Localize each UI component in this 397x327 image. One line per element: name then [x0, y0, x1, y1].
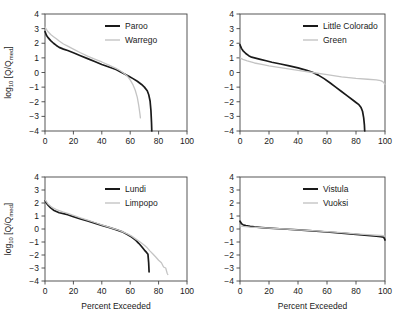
x-tick-label: 100	[378, 136, 392, 146]
x-tick-label: 40	[97, 286, 107, 296]
legend-label-vuoksi: Vuoksi	[323, 198, 348, 208]
y-tick-label: −3	[29, 111, 39, 121]
svg-text:log10 [Q/Qmed]: log10 [Q/Qmed]	[3, 46, 14, 98]
y-tick-label: 4	[34, 172, 39, 182]
legend-label-warrego: Warrego	[125, 35, 158, 45]
chart-panel-bottom-left: 43210−1−2−3−4020406080100LundiLimpopolog…	[0, 163, 197, 327]
series-line-little-colorado	[240, 45, 365, 131]
series-line-paroo	[45, 32, 152, 131]
y-tick-label: −1	[29, 237, 39, 247]
x-tick-label: 40	[293, 136, 303, 146]
y-tick-label: 0	[34, 68, 39, 78]
y-tick-label: 4	[229, 9, 234, 19]
y-tick-label: 3	[229, 24, 234, 34]
y-tick-label: −1	[224, 82, 234, 92]
y-tick-label: −1	[224, 237, 234, 247]
legend-label-paroo: Paroo	[125, 21, 148, 31]
y-tick-label: 2	[34, 198, 39, 208]
legend-label-vistula: Vistula	[323, 184, 349, 194]
y-tick-label: −2	[224, 250, 234, 260]
y-tick-label: 3	[34, 185, 39, 195]
figure-panel-grid: 43210−1−2−3−4020406080100ParooWarregolog…	[0, 0, 397, 327]
y-tick-label: 2	[34, 38, 39, 48]
x-tick-label: 60	[322, 286, 332, 296]
plot-frame	[45, 14, 187, 131]
y-tick-label: −4	[29, 126, 39, 136]
legend-label-lundi: Lundi	[125, 184, 146, 194]
plot-frame	[240, 177, 385, 281]
x-tick-label: 80	[351, 136, 361, 146]
x-tick-label: 100	[180, 286, 194, 296]
chart-panel-top-right: 43210−1−2−3−4020406080100Little Colorado…	[197, 0, 397, 163]
y-tick-label: 4	[34, 9, 39, 19]
series-line-vuoksi	[240, 226, 385, 236]
x-tick-label: 20	[264, 136, 274, 146]
x-axis-title: Percent Exceeded	[81, 301, 151, 311]
chart-panel-bottom-right: 43210−1−2−3−4020406080100VistulaVuoksiPe…	[197, 163, 397, 327]
y-tick-label: 3	[229, 185, 234, 195]
x-tick-label: 20	[69, 136, 79, 146]
x-tick-label: 100	[378, 286, 392, 296]
y-tick-label: 4	[229, 172, 234, 182]
x-tick-label: 40	[97, 136, 107, 146]
x-tick-label: 0	[43, 286, 48, 296]
x-tick-label: 0	[238, 286, 243, 296]
svg-text:log10 [Q/Qmed]: log10 [Q/Qmed]	[3, 203, 14, 255]
legend-label-little-colorado: Little Colorado	[323, 21, 378, 31]
y-tick-label: −2	[29, 97, 39, 107]
series-line-green	[240, 58, 385, 85]
x-axis-title: Percent Exceeded	[278, 301, 348, 311]
y-tick-label: 1	[34, 211, 39, 221]
x-tick-label: 20	[69, 286, 79, 296]
y-tick-label: −3	[224, 263, 234, 273]
y-tick-label: −2	[224, 97, 234, 107]
y-tick-label: 0	[34, 224, 39, 234]
legend-label-limpopo: Limpopo	[125, 198, 158, 208]
y-tick-label: −3	[224, 111, 234, 121]
x-tick-label: 60	[322, 136, 332, 146]
y-tick-label: 1	[34, 53, 39, 63]
x-tick-label: 60	[125, 286, 135, 296]
x-tick-label: 80	[154, 136, 164, 146]
y-axis-title: log10 [Q/Qmed]	[3, 46, 14, 98]
y-tick-label: 1	[229, 53, 234, 63]
y-tick-label: 3	[34, 24, 39, 34]
y-tick-label: 0	[229, 224, 234, 234]
x-tick-label: 60	[125, 136, 135, 146]
x-tick-label: 0	[238, 136, 243, 146]
y-tick-label: 0	[229, 68, 234, 78]
x-tick-label: 40	[293, 286, 303, 296]
y-tick-label: 2	[229, 198, 234, 208]
chart-panel-top-left: 43210−1−2−3−4020406080100ParooWarregolog…	[0, 0, 197, 163]
y-tick-label: −1	[29, 82, 39, 92]
x-tick-label: 0	[43, 136, 48, 146]
y-tick-label: −4	[224, 126, 234, 136]
y-tick-label: −4	[29, 276, 39, 286]
y-axis-title: log10 [Q/Qmed]	[3, 203, 14, 255]
y-tick-label: −4	[224, 276, 234, 286]
x-tick-label: 100	[180, 136, 194, 146]
x-tick-label: 80	[351, 286, 361, 296]
y-tick-label: 1	[229, 211, 234, 221]
x-tick-label: 20	[264, 286, 274, 296]
legend-label-green: Green	[323, 35, 347, 45]
y-tick-label: 2	[229, 38, 234, 48]
y-tick-label: −2	[29, 250, 39, 260]
y-tick-label: −3	[29, 263, 39, 273]
x-tick-label: 80	[154, 286, 164, 296]
